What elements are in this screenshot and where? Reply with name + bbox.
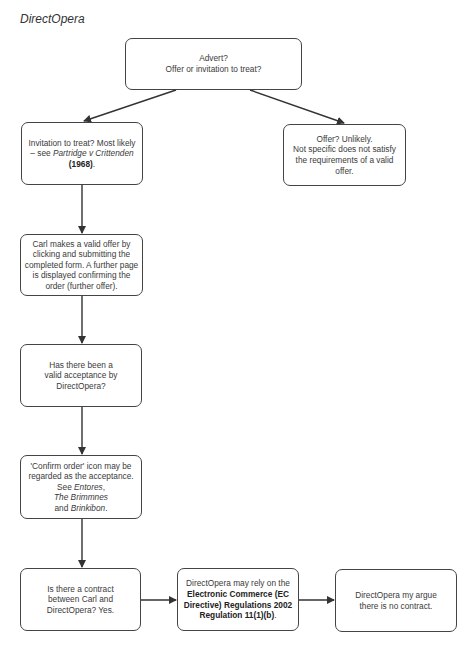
node-no-contract: DirectOpera my argue there is no contrac… xyxy=(335,569,457,632)
regulation-end: . xyxy=(274,610,276,620)
invitation-end: . xyxy=(93,159,95,169)
sep-1: , xyxy=(103,482,105,492)
offer-line2: Not specific does not satisfy the requir… xyxy=(293,144,396,175)
node-advert: Advert? Offer or invitation to treat? xyxy=(125,38,302,90)
advert-line1: Advert? xyxy=(199,53,228,63)
case-the-brimmnes: The Brimmnes xyxy=(54,492,108,502)
case-brinkibon: Brinkibon xyxy=(71,503,106,513)
node-confirm-order: 'Confirm order' icon may be regarded as … xyxy=(20,455,142,519)
carl-offer-text: Carl makes a valid offer by clicking and… xyxy=(24,239,139,292)
confirm-end: . xyxy=(105,503,107,513)
advert-line2: Offer or invitation to treat? xyxy=(166,64,262,74)
regulation-text: DirectOpera may rely on the xyxy=(186,578,290,588)
node-ec-regulation: DirectOpera may rely on the Electronic C… xyxy=(177,568,299,631)
offer-line1: Offer? Unlikely. xyxy=(317,134,373,144)
node-offer-unlikely: Offer? Unlikely. Not specific does not s… xyxy=(283,124,406,186)
node-invitation-to-treat: Invitation to treat? Most likely – see P… xyxy=(21,122,143,185)
node-acceptance-question: Has there been a valid acceptance by Dir… xyxy=(20,344,142,407)
acceptance-question-text: Has there been a valid acceptance by Dir… xyxy=(43,360,119,392)
case-partridge-v-crittenden: Partridge v Crittenden xyxy=(53,148,134,158)
flow-arrows xyxy=(0,0,472,647)
case-year: (1968) xyxy=(69,159,93,169)
contract-question-text: Is there a contract between Carl and Dir… xyxy=(39,584,122,616)
diagram-title: DirectOpera xyxy=(20,12,85,26)
case-entores: Entores xyxy=(74,482,103,492)
node-contract-question: Is there a contract between Carl and Dir… xyxy=(20,568,141,631)
arrow-advert-to-invitation xyxy=(84,90,176,121)
arrow-advert-to-offer xyxy=(250,90,344,123)
no-contract-text: DirectOpera my argue there is no contrac… xyxy=(346,590,446,611)
sep-2: and xyxy=(54,503,70,513)
node-carl-makes-offer: Carl makes a valid offer by clicking and… xyxy=(20,234,143,296)
